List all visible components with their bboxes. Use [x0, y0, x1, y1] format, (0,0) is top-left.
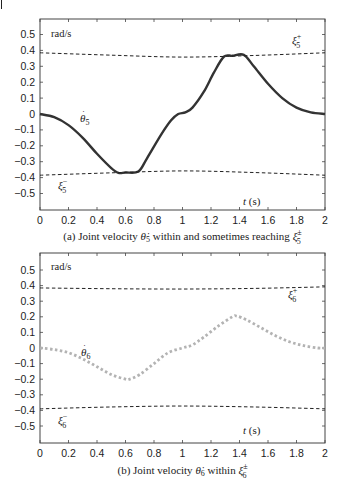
y-tick-label: −0.4 — [14, 171, 35, 183]
upper-bound-label: ξ+6 — [288, 286, 298, 304]
y-tick-label: −0.5 — [14, 187, 35, 199]
y-tick-label: −0.3 — [14, 388, 35, 400]
bound-line — [40, 53, 325, 57]
y-tick-label: 0.1 — [20, 326, 35, 338]
y-axis-unit-label: rad/s — [51, 28, 71, 39]
figure-caption: (b) Joint velocity θ̇6 within ξ±6 — [117, 462, 248, 480]
x-tick-label: 0.4 — [90, 214, 105, 226]
lower-bound-label: ξ−6 — [58, 412, 68, 430]
derivative-dot: · — [83, 340, 86, 350]
x-tick-label: 0 — [37, 447, 43, 459]
y-tick-label: 0.3 — [20, 295, 35, 307]
x-tick-label: 1.4 — [232, 214, 247, 226]
y-tick-label: 0.2 — [20, 310, 35, 322]
y-axis-unit-label: rad/s — [51, 261, 71, 272]
x-tick-label: 1.6 — [261, 214, 276, 226]
y-tick-label: −0.1 — [14, 123, 35, 135]
bound-line — [40, 171, 325, 175]
y-tick-label: −0.3 — [14, 155, 35, 167]
joint-velocity-figure: 00.20.40.60.811.21.41.61.820.50.40.30.20… — [0, 0, 345, 493]
x-tick-label: 1 — [180, 447, 186, 459]
y-tick-label: −0.1 — [14, 357, 35, 369]
x-tick-label: 0.2 — [61, 214, 76, 226]
x-tick-label: 1.4 — [232, 447, 247, 459]
y-tick-label: −0.2 — [14, 373, 35, 385]
x-tick-label: 1.2 — [204, 447, 219, 459]
x-tick-label: 1 — [180, 214, 186, 226]
y-tick-label: 0 — [29, 342, 35, 354]
bound-line — [40, 406, 325, 409]
bound-line — [40, 287, 325, 289]
y-tick-label: 0.1 — [20, 92, 35, 104]
upper-bound-label: ξ+5 — [292, 32, 302, 50]
y-tick-label: 0.3 — [20, 60, 35, 72]
x-tick-label: 0.4 — [90, 447, 105, 459]
lower-bound-label: ξ−5 — [58, 177, 68, 195]
y-tick-label: 0.4 — [20, 44, 35, 56]
chart-panel-a: 00.20.40.60.811.21.41.61.820.50.40.30.20… — [14, 19, 328, 246]
y-tick-label: −0.2 — [14, 139, 35, 151]
x-tick-label: 0.2 — [61, 447, 76, 459]
chart-panel-b: 00.20.40.60.811.21.41.61.820.50.40.30.20… — [14, 253, 328, 480]
x-tick-label: 0 — [37, 214, 43, 226]
x-tick-label: 2 — [322, 447, 328, 459]
y-tick-label: −0.4 — [14, 404, 35, 416]
x-tick-label: 0.8 — [147, 214, 162, 226]
x-tick-label: 2 — [322, 214, 328, 226]
y-tick-label: 0.2 — [20, 76, 35, 88]
y-tick-label: 0 — [29, 108, 35, 120]
x-axis-label: t (s) — [243, 424, 261, 437]
x-tick-label: 1.8 — [289, 447, 304, 459]
figure-caption: (a) Joint velocity θ̇5 within and someti… — [63, 228, 302, 246]
x-tick-label: 1.6 — [261, 447, 276, 459]
x-tick-label: 0.6 — [118, 214, 133, 226]
x-axis-label: t (s) — [243, 195, 261, 208]
x-tick-label: 1.2 — [204, 214, 219, 226]
y-tick-label: 0.5 — [20, 28, 35, 40]
y-tick-label: 0.4 — [20, 279, 35, 291]
y-tick-label: −0.5 — [14, 420, 35, 432]
x-tick-label: 1.8 — [289, 214, 304, 226]
x-tick-label: 0.8 — [147, 447, 162, 459]
x-tick-label: 0.6 — [118, 447, 133, 459]
y-tick-label: 0.5 — [20, 264, 35, 276]
derivative-dot: · — [82, 106, 85, 116]
